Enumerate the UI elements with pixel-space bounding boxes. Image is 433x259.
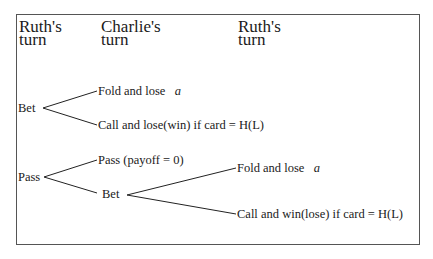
leaf-text: Fold and lose — [237, 161, 304, 175]
leaf-text: Fold and lose — [98, 84, 165, 98]
leaf-call-win-lose: Call and win(lose) if card = H(L) — [237, 207, 403, 221]
node-bet: Bet — [18, 101, 35, 115]
variable-a: a — [175, 84, 181, 98]
leaf-fold-lose-2: Fold and lose a — [237, 161, 320, 175]
node-pass: Pass — [18, 170, 40, 184]
leaf-fold-lose: Fold and lose a — [98, 84, 181, 98]
leaf-call-lose-win: Call and lose(win) if card = H(L) — [98, 118, 264, 132]
variable-a: a — [314, 161, 320, 175]
leaf-pass-payoff: Pass (payoff = 0) — [98, 153, 184, 167]
node-charlie-bet: Bet — [102, 187, 119, 201]
